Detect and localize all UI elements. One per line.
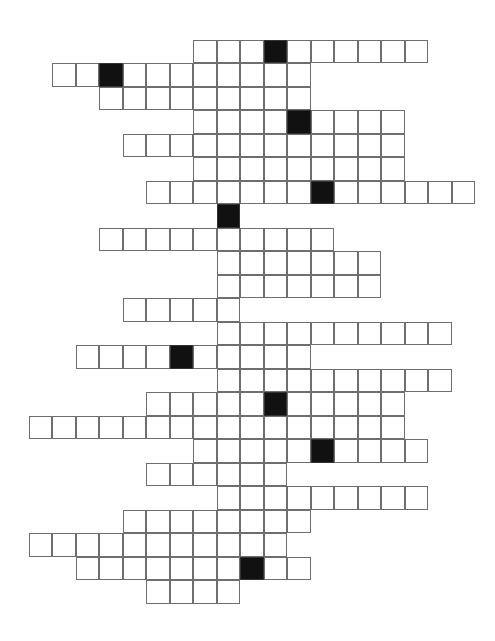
crossword-cell[interactable]	[240, 40, 264, 64]
crossword-cell[interactable]	[358, 369, 382, 393]
crossword-cell[interactable]	[146, 87, 170, 111]
crossword-cell[interactable]	[311, 275, 335, 299]
crossword-cell[interactable]	[240, 63, 264, 87]
crossword-cell[interactable]	[358, 181, 382, 205]
crossword-cell[interactable]	[146, 510, 170, 534]
crossword-cell[interactable]	[311, 110, 335, 134]
crossword-cell[interactable]	[193, 463, 217, 487]
crossword-cell[interactable]	[405, 486, 429, 510]
crossword-cell[interactable]	[240, 510, 264, 534]
crossword-cell[interactable]	[428, 181, 452, 205]
crossword-cell[interactable]	[29, 416, 53, 440]
crossword-cell[interactable]	[217, 228, 241, 252]
crossword-cell[interactable]	[311, 486, 335, 510]
crossword-cell[interactable]	[99, 345, 123, 369]
crossword-cell[interactable]	[240, 275, 264, 299]
crossword-cell[interactable]	[287, 369, 311, 393]
crossword-cell[interactable]	[264, 275, 288, 299]
crossword-cell[interactable]	[334, 416, 358, 440]
crossword-cell[interactable]	[240, 322, 264, 346]
crossword-cell[interactable]	[99, 416, 123, 440]
crossword-cell[interactable]	[311, 157, 335, 181]
crossword-cell[interactable]	[264, 228, 288, 252]
crossword-cell[interactable]	[287, 322, 311, 346]
crossword-cell[interactable]	[264, 369, 288, 393]
crossword-cell[interactable]	[358, 157, 382, 181]
crossword-cell[interactable]	[193, 392, 217, 416]
crossword-cell[interactable]	[358, 40, 382, 64]
crossword-cell[interactable]	[146, 134, 170, 158]
crossword-cell[interactable]	[240, 87, 264, 111]
crossword-cell[interactable]	[146, 392, 170, 416]
crossword-cell[interactable]	[240, 533, 264, 557]
crossword-cell[interactable]	[123, 533, 147, 557]
crossword-cell[interactable]	[405, 322, 429, 346]
crossword-cell[interactable]	[264, 463, 288, 487]
crossword-cell[interactable]	[123, 510, 147, 534]
crossword-cell[interactable]	[334, 251, 358, 275]
crossword-cell[interactable]	[217, 510, 241, 534]
crossword-cell[interactable]	[287, 157, 311, 181]
crossword-cell[interactable]	[264, 416, 288, 440]
crossword-cell[interactable]	[146, 557, 170, 581]
crossword-cell[interactable]	[381, 486, 405, 510]
crossword-cell[interactable]	[123, 416, 147, 440]
crossword-cell[interactable]	[170, 463, 194, 487]
crossword-cell[interactable]	[287, 87, 311, 111]
crossword-cell[interactable]	[217, 369, 241, 393]
crossword-cell[interactable]	[170, 416, 194, 440]
crossword-cell[interactable]	[240, 181, 264, 205]
crossword-cell[interactable]	[146, 298, 170, 322]
crossword-cell[interactable]	[52, 63, 76, 87]
crossword-cell[interactable]	[193, 181, 217, 205]
crossword-cell[interactable]	[217, 87, 241, 111]
crossword-cell[interactable]	[52, 533, 76, 557]
crossword-cell[interactable]	[334, 486, 358, 510]
crossword-cell[interactable]	[217, 345, 241, 369]
crossword-cell[interactable]	[146, 181, 170, 205]
crossword-cell[interactable]	[311, 40, 335, 64]
crossword-cell[interactable]	[405, 369, 429, 393]
crossword-cell[interactable]	[358, 110, 382, 134]
crossword-cell[interactable]	[193, 40, 217, 64]
crossword-cell[interactable]	[264, 322, 288, 346]
crossword-cell[interactable]	[381, 439, 405, 463]
crossword-cell[interactable]	[217, 134, 241, 158]
crossword-cell[interactable]	[264, 439, 288, 463]
crossword-cell[interactable]	[193, 439, 217, 463]
crossword-cell[interactable]	[405, 181, 429, 205]
crossword-cell[interactable]	[334, 275, 358, 299]
crossword-cell[interactable]	[358, 392, 382, 416]
crossword-cell[interactable]	[193, 557, 217, 581]
crossword-cell[interactable]	[217, 275, 241, 299]
crossword-cell[interactable]	[334, 181, 358, 205]
crossword-cell[interactable]	[123, 63, 147, 87]
crossword-cell[interactable]	[217, 439, 241, 463]
crossword-cell[interactable]	[358, 322, 382, 346]
crossword-cell[interactable]	[264, 251, 288, 275]
crossword-cell[interactable]	[381, 322, 405, 346]
crossword-cell[interactable]	[217, 157, 241, 181]
crossword-cell[interactable]	[240, 392, 264, 416]
crossword-cell[interactable]	[358, 416, 382, 440]
crossword-cell[interactable]	[381, 134, 405, 158]
crossword-cell[interactable]	[264, 486, 288, 510]
crossword-cell[interactable]	[146, 580, 170, 604]
crossword-cell[interactable]	[287, 416, 311, 440]
crossword-cell[interactable]	[170, 392, 194, 416]
crossword-cell[interactable]	[240, 439, 264, 463]
crossword-cell[interactable]	[264, 510, 288, 534]
crossword-cell[interactable]	[170, 510, 194, 534]
crossword-cell[interactable]	[287, 63, 311, 87]
crossword-cell[interactable]	[217, 181, 241, 205]
crossword-cell[interactable]	[170, 580, 194, 604]
crossword-cell[interactable]	[428, 322, 452, 346]
crossword-cell[interactable]	[193, 416, 217, 440]
crossword-cell[interactable]	[358, 486, 382, 510]
crossword-cell[interactable]	[358, 275, 382, 299]
crossword-cell[interactable]	[99, 87, 123, 111]
crossword-cell[interactable]	[217, 110, 241, 134]
crossword-cell[interactable]	[287, 510, 311, 534]
crossword-cell[interactable]	[99, 557, 123, 581]
crossword-cell[interactable]	[264, 181, 288, 205]
